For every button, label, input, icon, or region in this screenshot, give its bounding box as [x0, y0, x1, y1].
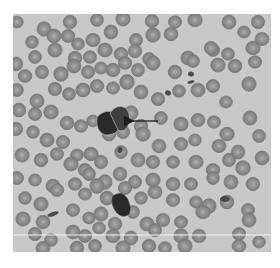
red-blood-cell — [152, 139, 166, 153]
red-blood-cell — [146, 155, 159, 168]
red-blood-cell — [78, 230, 91, 243]
red-blood-cell — [146, 173, 160, 187]
red-blood-cell — [47, 29, 61, 43]
red-blood-cell — [208, 116, 221, 128]
red-blood-cell — [224, 175, 238, 189]
red-blood-cell — [116, 14, 130, 26]
red-blood-cell — [40, 133, 54, 147]
red-blood-cell — [166, 194, 179, 207]
red-blood-cell — [36, 215, 50, 228]
red-blood-cell — [242, 213, 256, 227]
red-blood-cell — [113, 167, 127, 181]
red-blood-cell — [191, 83, 205, 97]
red-blood-cell — [232, 240, 246, 253]
red-blood-cell — [146, 56, 160, 70]
red-blood-cell — [189, 155, 203, 169]
red-blood-cell — [228, 59, 242, 72]
red-blood-cell — [120, 75, 134, 90]
red-blood-cell — [220, 127, 234, 141]
red-blood-cell — [29, 51, 42, 64]
red-blood-cell — [146, 28, 160, 42]
red-blood-cell — [93, 222, 106, 234]
red-blood-cell — [81, 66, 94, 79]
red-blood-cell — [255, 151, 269, 165]
debris-particle — [220, 196, 230, 202]
red-blood-cell — [95, 62, 108, 74]
red-blood-cell — [44, 105, 58, 119]
red-blood-cell — [204, 41, 217, 54]
red-blood-cell — [76, 83, 90, 97]
red-blood-cell — [19, 192, 32, 205]
red-blood-cell — [145, 14, 159, 27]
red-blood-cell — [29, 174, 42, 186]
red-blood-cell — [159, 242, 172, 252]
red-blood-cell — [27, 126, 40, 139]
red-blood-cell — [164, 27, 178, 41]
red-blood-cell — [174, 138, 187, 151]
red-blood-cell — [68, 178, 81, 191]
red-blood-cell — [155, 112, 168, 125]
red-blood-cell — [212, 139, 226, 152]
red-blood-cell — [36, 65, 49, 78]
red-blood-cell — [207, 172, 220, 185]
red-blood-cell — [132, 63, 145, 76]
red-blood-cell — [90, 179, 104, 194]
red-blood-cell — [63, 15, 76, 29]
red-blood-cell — [51, 148, 64, 161]
red-blood-cell — [118, 181, 131, 194]
red-blood-cell — [206, 80, 219, 93]
red-blood-cell — [36, 241, 50, 252]
red-blood-cell — [100, 191, 114, 205]
red-blood-cell — [67, 59, 81, 73]
smear-canvas — [13, 14, 271, 252]
red-blood-cell — [174, 117, 188, 131]
red-blood-cell — [236, 161, 250, 176]
red-blood-cell — [16, 212, 30, 226]
red-blood-cell — [131, 153, 145, 167]
red-blood-cell — [60, 116, 74, 129]
red-blood-cell — [89, 240, 102, 253]
red-blood-cell — [63, 88, 76, 101]
red-blood-cell — [106, 229, 120, 242]
red-blood-cell — [151, 92, 164, 105]
red-blood-cell — [128, 44, 141, 58]
red-blood-cell — [166, 177, 180, 190]
red-blood-cell — [83, 212, 96, 224]
red-blood-cell — [253, 130, 266, 143]
red-blood-cell — [29, 108, 42, 121]
red-blood-cell — [48, 82, 61, 95]
red-blood-cell — [84, 51, 97, 64]
red-blood-cell — [30, 94, 44, 108]
red-blood-cell — [106, 63, 120, 76]
red-blood-cell — [66, 225, 80, 239]
red-blood-cell — [148, 185, 162, 199]
red-blood-cell — [251, 15, 264, 28]
red-blood-cell — [136, 127, 150, 141]
red-blood-cell — [184, 178, 197, 190]
red-blood-cell — [72, 38, 85, 50]
red-blood-cell — [188, 14, 202, 27]
red-blood-cell — [50, 184, 64, 197]
red-blood-cell — [192, 229, 206, 243]
red-blood-cell — [86, 33, 100, 46]
red-blood-cell — [178, 239, 192, 252]
red-blood-cell — [48, 43, 62, 57]
red-blood-cell — [66, 204, 79, 217]
red-blood-cell — [56, 136, 69, 149]
red-blood-cell — [167, 156, 180, 168]
red-blood-cell — [116, 241, 130, 252]
red-blood-cell — [238, 26, 251, 38]
red-blood-cell — [232, 228, 245, 241]
red-blood-cell — [83, 167, 96, 180]
red-blood-cell — [98, 43, 112, 57]
red-blood-cell — [222, 48, 235, 60]
red-blood-cell — [13, 57, 23, 71]
red-blood-cell — [135, 192, 148, 204]
red-blood-cell — [108, 217, 121, 231]
red-blood-cell — [223, 153, 236, 166]
red-blood-cell — [211, 58, 225, 72]
blood-smear-micrograph — [13, 14, 271, 252]
red-blood-cell — [175, 216, 188, 228]
red-blood-cell — [91, 14, 104, 26]
red-blood-cell — [104, 25, 118, 39]
